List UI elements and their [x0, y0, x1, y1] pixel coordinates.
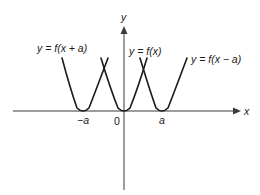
x-axis-label: x — [243, 105, 250, 117]
tick-label-pos-a: a — [159, 114, 165, 126]
origin-label: 0 — [114, 115, 120, 127]
tick-label-neg-a: −a — [77, 114, 89, 126]
y-axis-label: y — [120, 11, 127, 23]
y-axis-arrow-icon — [121, 26, 128, 34]
translation-diagram: y = f(x + a) y = f(x) y = f(x − a) y x −… — [0, 0, 260, 195]
x-axis-arrow-icon — [233, 108, 241, 115]
curve-label-shift-left: y = f(x + a) — [36, 42, 87, 54]
curve-label-original: y = f(x) — [128, 45, 161, 57]
curve-shift-right — [140, 58, 187, 111]
y-axis — [121, 26, 128, 190]
curve-shift-left — [62, 58, 108, 111]
curve-label-shift-right: y = f(x − a) — [190, 53, 241, 65]
